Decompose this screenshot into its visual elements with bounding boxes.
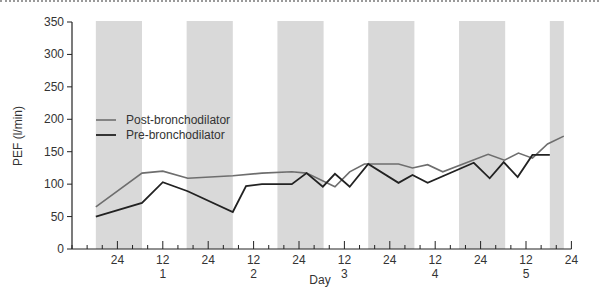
y-tick-label: 150 xyxy=(44,145,64,159)
x-tick-label: 24 xyxy=(111,253,125,267)
x-tick-label: 12 xyxy=(519,253,533,267)
day-label: 1 xyxy=(159,267,166,281)
x-tick-label: 24 xyxy=(383,253,397,267)
x-tick-label: 12 xyxy=(429,253,443,267)
x-tick-label: 12 xyxy=(156,253,170,267)
day-label: 4 xyxy=(432,267,439,281)
y-tick-label: 200 xyxy=(44,112,64,126)
x-tick-label: 24 xyxy=(202,253,216,267)
night-band xyxy=(459,21,505,249)
y-tick-label: 250 xyxy=(44,80,64,94)
x-tick-label: 12 xyxy=(338,253,352,267)
x-tick-label: 24 xyxy=(292,253,306,267)
x-tick-label: 24 xyxy=(474,253,488,267)
night-band xyxy=(550,21,564,249)
legend-entry: Post-bronchodilator xyxy=(126,113,230,127)
legend-entry: Pre-bronchodilator xyxy=(126,128,225,142)
y-tick-label: 0 xyxy=(57,242,64,256)
y-tick-label: 50 xyxy=(51,210,65,224)
x-tick-label: 24 xyxy=(565,253,579,267)
day-label: 5 xyxy=(523,267,530,281)
x-axis-label: Day xyxy=(309,273,330,287)
y-tick-label: 350 xyxy=(44,15,64,29)
day-label: 3 xyxy=(341,267,348,281)
y-tick-label: 100 xyxy=(44,177,64,191)
x-tick-label: 12 xyxy=(247,253,261,267)
night-band xyxy=(277,21,323,249)
day-label: 2 xyxy=(250,267,257,281)
y-axis-label: PEF (l/min) xyxy=(11,106,25,166)
night-band xyxy=(368,21,414,249)
pef-line-chart: 0501001502002503003502412124122241232412… xyxy=(0,0,599,299)
y-tick-label: 300 xyxy=(44,47,64,61)
